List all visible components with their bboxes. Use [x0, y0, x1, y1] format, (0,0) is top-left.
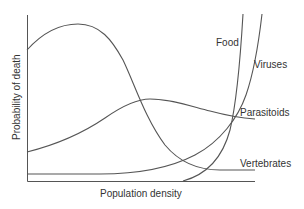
y-axis-label: Probability of death [11, 54, 22, 140]
label-viruses: Viruses [254, 59, 287, 70]
label-vertebrates: Vertebrates [240, 158, 291, 169]
label-food: Food [216, 37, 239, 48]
x-axis-label: Population density [100, 188, 182, 199]
curve-parasitoids [27, 99, 255, 152]
chart: Food Viruses Parasitoids Vertebrates Pop… [0, 0, 304, 209]
label-parasitoids: Parasitoids [240, 107, 289, 118]
